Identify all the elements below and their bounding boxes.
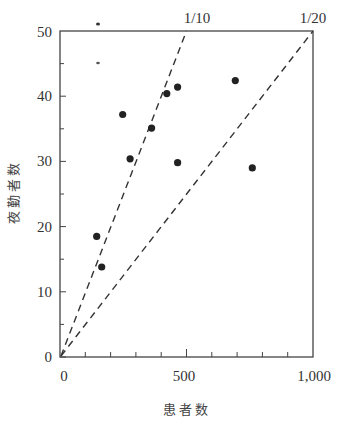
data-point (98, 263, 105, 270)
scan-mark (96, 62, 100, 64)
y-axis-ticks (60, 64, 66, 357)
data-point (127, 155, 134, 162)
x-tick-label: 0 (60, 368, 68, 384)
y-tick-label: 0 (45, 349, 53, 365)
data-point (174, 84, 181, 91)
scan-mark (96, 23, 100, 26)
data-point (249, 164, 256, 171)
data-point (119, 111, 126, 118)
ratio-label-1-10: 1/10 (184, 10, 211, 26)
data-points (93, 77, 256, 271)
scatter-chart: 0 10 20 30 40 50 0 500 1,000 患者数 夜勤者数 1/… (0, 0, 342, 429)
data-point (148, 125, 155, 132)
x-tick-label: 1,000 (297, 368, 331, 384)
y-tick-label: 30 (37, 153, 52, 169)
y-axis-title: 夜勤者数 (6, 160, 21, 224)
y-tick-label: 40 (37, 88, 52, 104)
data-point (93, 233, 100, 240)
ratio-line-1-10 (61, 31, 187, 356)
x-tick-label: 500 (173, 368, 196, 384)
x-axis-title: 患者数 (163, 402, 211, 417)
y-tick-label: 50 (37, 24, 52, 40)
x-axis-ticks (85, 349, 287, 357)
data-point (232, 77, 239, 84)
data-point (174, 159, 181, 166)
y-tick-label: 10 (37, 284, 52, 300)
ratio-line-1-20 (61, 31, 313, 356)
data-point (163, 90, 170, 97)
ratio-label-1-20: 1/20 (300, 10, 327, 26)
y-tick-label: 20 (37, 219, 52, 235)
